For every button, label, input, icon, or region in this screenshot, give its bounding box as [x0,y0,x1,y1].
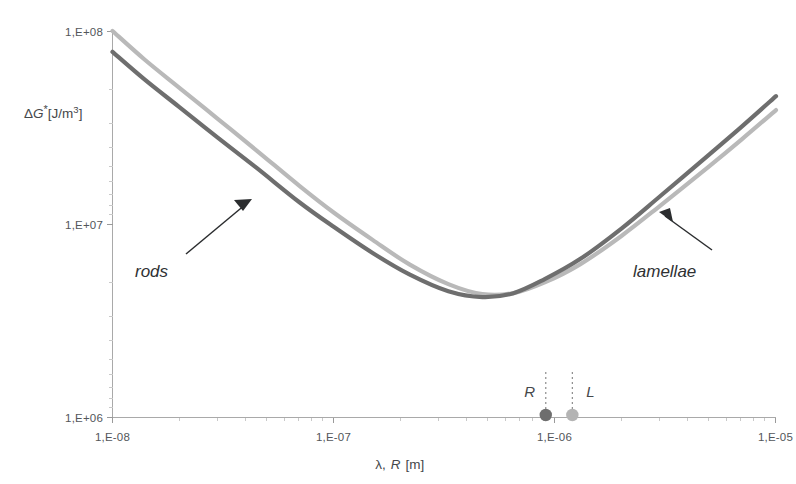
y-axis-title-g: G [33,106,44,121]
curve-lamellae [113,31,777,295]
y-tick-labels: 1,E+08 1,E+07 1,E+06 [65,26,103,424]
y-minor-ticks [109,90,113,408]
rods-arrow-head-icon [234,199,252,211]
y-axis-title-close: ] [79,106,83,121]
marker-dot-l [566,409,578,421]
curve-rods [113,52,777,297]
x-axis-title-r: R [391,457,401,472]
x-tick-label-1e-7: 1,E-07 [316,431,351,443]
marker-label-r: R [524,383,535,400]
x-axis-title-unit: [m] [406,457,425,472]
y-axis-title: ΔG*[J/m3] [24,103,82,121]
x-tick-label-1e-6: 1,E-06 [537,431,572,443]
annotation-rods: rods [135,199,252,281]
marker-dot-r [540,409,552,421]
y-tick-label-1e7: 1,E+07 [65,219,103,231]
annotation-label-lamellae: lamellae [633,262,696,281]
x-axis-title: λ,R[m] [341,457,450,472]
marker-droplines [546,372,573,412]
annotation-label-rods: rods [135,262,169,281]
chart-svg: 1,E+08 1,E+07 1,E+06 1,E-08 1,E-07 1,E-0… [0,0,796,484]
x-tick-labels: 1,E-08 1,E-07 1,E-06 1,E-05 [95,431,793,443]
chart-figure: 1,E+08 1,E+07 1,E+06 1,E-08 1,E-07 1,E-0… [0,0,796,484]
x-tick-marks [113,418,776,424]
x-tick-label-1e-8: 1,E-08 [95,431,130,443]
y-tick-label-1e6: 1,E+06 [65,412,103,424]
y-tick-label-1e8: 1,E+08 [65,26,103,38]
y-axis-title-delta: Δ [24,106,33,121]
x-axis-title-lambda: λ, [375,457,386,472]
svg-text:ΔG*[J/m3]: ΔG*[J/m3] [24,103,82,121]
y-axis-title-unit: [J/m [48,106,74,121]
rods-arrow-line [186,204,246,254]
marker-label-l: L [586,383,594,400]
svg-text:λ,R[m]: λ,R[m] [341,457,450,472]
x-tick-label-1e-5: 1,E-05 [758,431,793,443]
marker-labels: R L [524,383,594,400]
lamellae-arrow-head-icon [659,208,673,222]
marker-dots [540,409,579,421]
